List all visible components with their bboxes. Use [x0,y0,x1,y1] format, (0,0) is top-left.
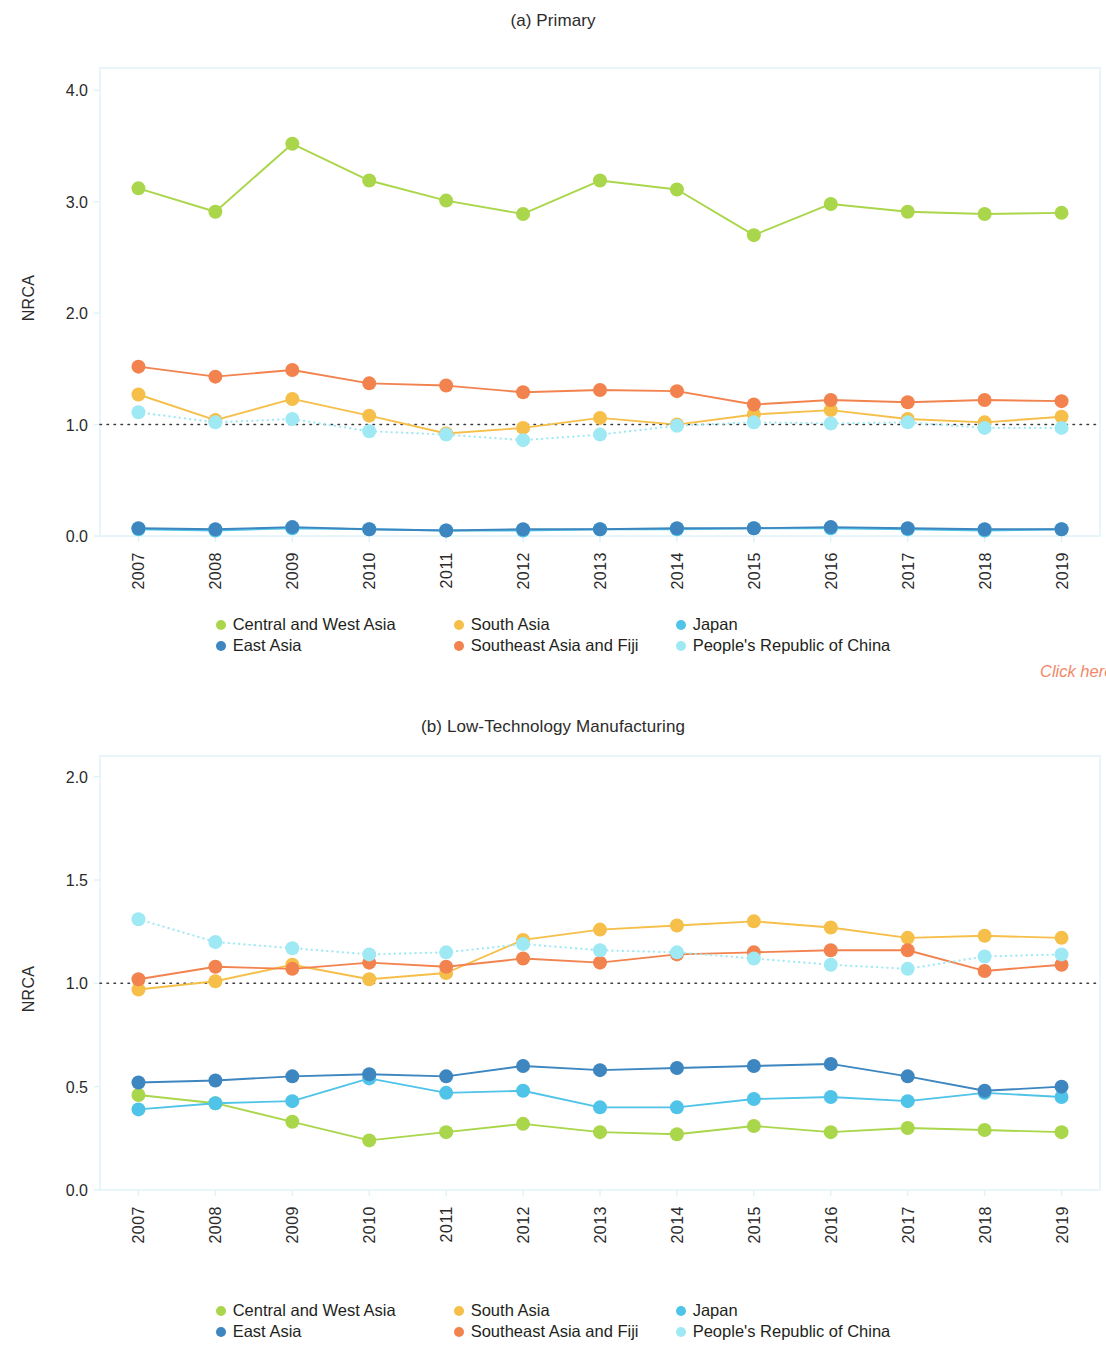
data-point [593,522,607,536]
data-point [747,952,761,966]
legend-item-label: East Asia [233,1321,302,1342]
data-point [593,174,607,188]
data-point [439,523,453,537]
chart-b-title: (b) Low-Technology Manufacturing [0,700,1106,740]
data-point [593,1063,607,1077]
chart-b-legend: Central and West AsiaSouth AsiaJapanEast… [0,1300,1106,1342]
data-point [285,1115,299,1129]
data-point [747,228,761,242]
data-point [362,174,376,188]
legend-item-label: Japan [693,1300,738,1321]
data-point [593,923,607,937]
data-point [362,376,376,390]
x-tick-label: 2008 [207,1206,224,1244]
x-tick-label: 2016 [823,1206,840,1244]
x-tick-label: 2014 [669,1206,686,1244]
x-tick-label: 2008 [207,552,224,590]
x-tick-label: 2011 [438,1206,455,1242]
data-point [131,360,145,374]
data-point [901,415,915,429]
x-tick-label: 2012 [515,552,532,590]
chart-b-y-axis-label: NRCA [20,966,38,1013]
data-point [978,393,992,407]
data-point [747,521,761,535]
data-point [208,974,222,988]
data-point [901,395,915,409]
legend-item[interactable]: South Asia [454,614,676,635]
data-point [593,956,607,970]
data-point [747,398,761,412]
data-point [208,1073,222,1087]
y-tick-label: 1.0 [66,975,88,992]
data-point [824,1057,838,1071]
data-point [593,428,607,442]
legend-marker-icon [676,1306,686,1316]
x-tick-label: 2007 [130,1206,147,1244]
data-point [1055,421,1069,435]
data-point [208,960,222,974]
y-tick-label: 0.5 [66,1079,88,1096]
data-point [439,945,453,959]
data-point [208,522,222,536]
data-point [593,1125,607,1139]
chart-a-title: (a) Primary [0,0,1106,34]
y-tick-label: 2.0 [66,305,88,322]
y-tick-label: 1.5 [66,872,88,889]
legend-item[interactable]: Southeast Asia and Fiji [454,635,676,656]
data-point [670,1100,684,1114]
legend-item[interactable]: Japan [676,1300,891,1321]
legend-marker-icon [454,620,464,630]
data-point [439,379,453,393]
data-point [747,914,761,928]
data-point [901,521,915,535]
legend-item[interactable]: Japan [676,614,891,635]
x-tick-label: 2009 [284,1206,301,1244]
data-point [824,958,838,972]
data-point [824,520,838,534]
legend-item-label: Central and West Asia [233,1300,396,1321]
data-point [824,1090,838,1104]
x-tick-label: 2017 [900,552,917,590]
data-point [747,415,761,429]
data-point [901,205,915,219]
legend-item-label: People's Republic of China [693,635,891,656]
data-point [516,385,530,399]
data-point [670,918,684,932]
x-tick-label: 2019 [1054,552,1071,590]
legend-marker-icon [454,641,464,651]
legend-marker-icon [454,1306,464,1316]
click-here-link[interactable]: Click here [1040,662,1106,681]
chart-a-svg: 0.01.02.03.04.02007200820092010201120122… [0,34,1106,614]
data-point [285,1069,299,1083]
data-point [208,1096,222,1110]
data-point [131,1102,145,1116]
legend-marker-icon [454,1327,464,1337]
legend-marker-icon [676,620,686,630]
legend-item[interactable]: People's Republic of China [676,1321,891,1342]
legend-item[interactable]: South Asia [454,1300,676,1321]
data-point [208,415,222,429]
chart-a-plot-area: NRCA 0.01.02.03.04.020072008200920102011… [0,34,1106,614]
legend-item[interactable]: East Asia [216,1321,454,1342]
x-tick-label: 2013 [592,1206,609,1244]
legend-item[interactable]: People's Republic of China [676,635,891,656]
legend-item[interactable]: Central and West Asia [216,1300,454,1321]
legend-item[interactable]: Southeast Asia and Fiji [454,1321,676,1342]
data-point [516,421,530,435]
data-point [747,1119,761,1133]
data-point [131,1088,145,1102]
data-point [362,947,376,961]
chart-a-legend: Central and West AsiaSouth AsiaJapanEast… [0,614,1106,656]
data-point [670,521,684,535]
legend-item[interactable]: East Asia [216,635,454,656]
chart-a-y-axis-label: NRCA [20,275,38,322]
data-point [516,433,530,447]
data-point [131,181,145,195]
data-point [439,960,453,974]
x-tick-label: 2016 [823,552,840,590]
data-point [362,409,376,423]
data-point [670,419,684,433]
legend-item[interactable]: Central and West Asia [216,614,454,635]
data-point [1055,206,1069,220]
data-point [670,384,684,398]
